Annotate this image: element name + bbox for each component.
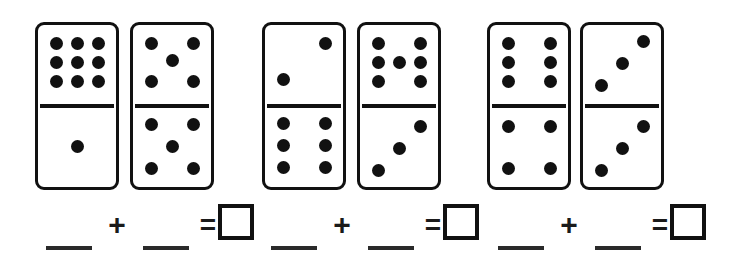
pip <box>393 56 406 69</box>
domino-6-top-half <box>583 25 661 106</box>
domino-addition-worksheet: + = + = + = <box>0 0 742 269</box>
domino-5 <box>487 22 571 190</box>
pip <box>71 37 84 50</box>
plus-icon: + <box>556 210 582 240</box>
equation-1: + = <box>30 198 265 269</box>
domino-4-top-half <box>360 25 438 106</box>
domino-1-top-half <box>38 25 116 106</box>
equation-1-addend-2-blank[interactable] <box>143 246 189 250</box>
equation-3-answer-box[interactable] <box>670 204 706 240</box>
pip <box>187 37 200 50</box>
pip <box>187 75 200 88</box>
pip <box>145 37 158 50</box>
pip <box>92 56 105 69</box>
pip <box>414 37 427 50</box>
pip <box>319 117 332 130</box>
pip <box>372 56 385 69</box>
pip <box>414 75 427 88</box>
pip <box>71 75 84 88</box>
pip <box>319 161 332 174</box>
pip <box>393 142 406 155</box>
pip <box>544 75 557 88</box>
pip <box>50 75 63 88</box>
pip <box>50 56 63 69</box>
domino-4-bottom-half <box>360 106 438 187</box>
equation-3: + = <box>482 198 717 269</box>
pip <box>319 139 332 152</box>
pip <box>372 164 385 177</box>
equals-icon: = <box>649 212 671 238</box>
domino-3-bottom-half <box>265 106 343 187</box>
pip <box>544 120 557 133</box>
domino-6 <box>580 22 664 190</box>
equation-3-addend-1-blank[interactable] <box>498 246 544 250</box>
pip <box>372 37 385 50</box>
pip <box>71 56 84 69</box>
domino-3-top-half <box>265 25 343 106</box>
pip <box>50 37 63 50</box>
pip <box>145 118 158 131</box>
pip <box>414 56 427 69</box>
pip <box>502 75 515 88</box>
domino-row <box>0 0 742 200</box>
domino-1 <box>35 22 119 190</box>
equation-2-addend-1-blank[interactable] <box>271 246 317 250</box>
pip <box>92 75 105 88</box>
pip <box>637 120 650 133</box>
domino-4 <box>357 22 441 190</box>
equals-icon: = <box>197 212 219 238</box>
pip <box>544 162 557 175</box>
pip <box>277 161 290 174</box>
pip <box>145 162 158 175</box>
pip <box>595 164 608 177</box>
equation-2-answer-box[interactable] <box>443 204 479 240</box>
domino-3 <box>262 22 346 190</box>
pip <box>277 73 290 86</box>
pip <box>166 54 179 67</box>
domino-6-bottom-half <box>583 106 661 187</box>
equation-1-answer-box[interactable] <box>218 204 254 240</box>
pip <box>414 120 427 133</box>
equals-icon: = <box>422 212 444 238</box>
pip <box>637 35 650 48</box>
pip <box>544 56 557 69</box>
pip <box>71 140 84 153</box>
equation-2: + = <box>255 198 490 269</box>
pip <box>166 140 179 153</box>
pip <box>277 139 290 152</box>
equation-row: + = + = + = <box>0 198 742 269</box>
pip <box>544 37 557 50</box>
pip <box>319 37 332 50</box>
plus-icon: + <box>104 210 130 240</box>
equation-3-addend-2-blank[interactable] <box>595 246 641 250</box>
pip <box>92 37 105 50</box>
pip <box>372 75 385 88</box>
pip <box>502 56 515 69</box>
domino-5-bottom-half <box>490 106 568 187</box>
pip <box>187 162 200 175</box>
pip <box>502 37 515 50</box>
domino-2-bottom-half <box>133 106 211 187</box>
domino-2 <box>130 22 214 190</box>
domino-2-top-half <box>133 25 211 106</box>
pip <box>145 75 158 88</box>
plus-icon: + <box>329 210 355 240</box>
pip <box>595 79 608 92</box>
pip <box>502 162 515 175</box>
pip <box>616 142 629 155</box>
pip <box>187 118 200 131</box>
pip <box>277 117 290 130</box>
pip <box>502 120 515 133</box>
equation-1-addend-1-blank[interactable] <box>46 246 92 250</box>
domino-5-top-half <box>490 25 568 106</box>
equation-2-addend-2-blank[interactable] <box>368 246 414 250</box>
domino-1-bottom-half <box>38 106 116 187</box>
pip <box>616 57 629 70</box>
